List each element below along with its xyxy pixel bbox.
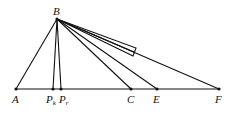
- segment-BPr: [57, 19, 61, 89]
- point-E: [155, 87, 158, 90]
- point-C: [129, 87, 132, 90]
- label-C: C: [127, 93, 135, 105]
- segment-inner-fan: [57, 19, 134, 52]
- label-B: B: [53, 5, 60, 17]
- point-B: [55, 17, 58, 20]
- label-Pr: Pr: [58, 93, 69, 107]
- point-Pk: [51, 87, 54, 90]
- label-A: A: [11, 93, 19, 105]
- point-F: [217, 87, 220, 90]
- segment-BC: [57, 19, 131, 89]
- point-A: [14, 87, 17, 90]
- label-Pk: Pk: [45, 93, 57, 107]
- label-F: F: [214, 93, 222, 105]
- label-E: E: [152, 93, 160, 105]
- point-Pr: [59, 87, 62, 90]
- segment-BE: [57, 19, 157, 89]
- segment-BA: [16, 19, 57, 89]
- geometry-diagram: B A Pk Pr C E F: [0, 0, 230, 114]
- segment-BPk: [53, 19, 57, 89]
